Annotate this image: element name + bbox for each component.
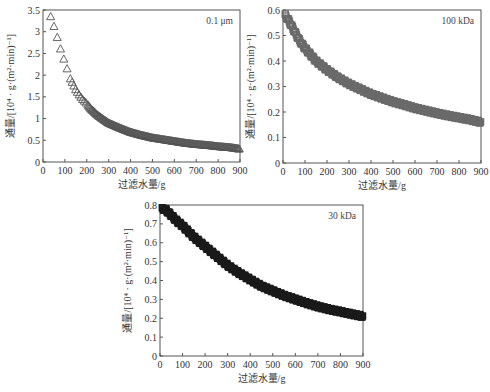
x-tick-label: 500 bbox=[145, 165, 160, 176]
chart-panel-100kda: 010020030040050060070080090000.10.20.30.… bbox=[245, 5, 489, 192]
y-tick-label: 0.4 bbox=[268, 56, 281, 67]
x-tick-label: 200 bbox=[198, 359, 213, 370]
y-tick-label: 0.3 bbox=[268, 81, 281, 92]
triangle-marker bbox=[57, 45, 65, 52]
x-tick-label: 900 bbox=[474, 166, 489, 177]
y-tick-label: 0.4 bbox=[145, 275, 158, 286]
y-tick-label: 0.5 bbox=[145, 256, 158, 267]
x-axis-label: 过滤水量/g bbox=[118, 178, 166, 190]
plot-frame bbox=[283, 10, 481, 163]
data-series bbox=[159, 205, 365, 321]
x-tick-label: 700 bbox=[189, 165, 204, 176]
y-axis-label: 通量/[10⁴ · g·(m²·min)⁻¹] bbox=[122, 228, 134, 332]
triangle-marker bbox=[50, 22, 58, 29]
triangle-marker bbox=[47, 13, 55, 20]
y-tick-label: 0.6 bbox=[145, 237, 158, 248]
x-tick-label: 400 bbox=[123, 165, 138, 176]
y-tick-label: 0 bbox=[275, 158, 280, 169]
x-tick-label: 800 bbox=[333, 359, 348, 370]
y-tick-label: 0.5 bbox=[268, 30, 281, 41]
y-tick-label: 0.2 bbox=[268, 107, 281, 118]
x-tick-label: 800 bbox=[452, 166, 467, 177]
x-tick-label: 200 bbox=[320, 166, 335, 177]
x-tick-label: 800 bbox=[211, 165, 226, 176]
y-tick-label: 3 bbox=[35, 26, 40, 37]
y-tick-label: 0 bbox=[152, 351, 157, 362]
x-tick-label: 600 bbox=[408, 166, 423, 177]
y-tick-label: 0.5 bbox=[28, 135, 41, 146]
y-axis-label: 通量/[10⁴ · g·(m²·min)⁻¹] bbox=[5, 34, 17, 138]
y-tick-label: 0.1 bbox=[268, 132, 281, 143]
x-tick-label: 900 bbox=[233, 165, 248, 176]
y-axis-label: 通量/[10⁴ · g·(m²·min)⁻¹] bbox=[245, 34, 257, 138]
y-tick-label: 2.5 bbox=[28, 48, 41, 59]
y-tick-label: 0.6 bbox=[268, 5, 281, 16]
x-tick-label: 100 bbox=[57, 165, 72, 176]
chart-panel-0-1um: 010020030040050060070080090000.511.522.5… bbox=[5, 5, 248, 191]
x-tick-label: 300 bbox=[342, 166, 357, 177]
triangle-marker bbox=[63, 65, 71, 72]
y-tick-label: 0.3 bbox=[145, 294, 158, 305]
y-tick-label: 1 bbox=[35, 113, 40, 124]
y-tick-label: 0.7 bbox=[145, 218, 158, 229]
x-tick-label: 100 bbox=[175, 359, 190, 370]
data-series bbox=[282, 11, 483, 126]
panel-tag: 100 kDa bbox=[442, 16, 475, 26]
x-axis-label: 过滤水量/g bbox=[358, 179, 406, 191]
triangle-marker bbox=[60, 55, 68, 62]
x-tick-label: 900 bbox=[356, 359, 371, 370]
x-axis-label: 过滤水量/g bbox=[238, 372, 286, 384]
x-tick-label: 300 bbox=[101, 165, 116, 176]
x-tick-label: 300 bbox=[220, 359, 235, 370]
y-tick-label: 0.2 bbox=[145, 313, 158, 324]
x-tick-label: 0 bbox=[158, 359, 163, 370]
x-tick-label: 400 bbox=[243, 359, 258, 370]
x-tick-label: 400 bbox=[364, 166, 379, 177]
x-tick-label: 500 bbox=[386, 166, 401, 177]
panel-tag: 0.1 μm bbox=[206, 16, 233, 26]
x-tick-label: 100 bbox=[298, 166, 313, 177]
x-tick-label: 200 bbox=[79, 165, 94, 176]
y-tick-label: 1.5 bbox=[28, 91, 41, 102]
y-tick-label: 3.5 bbox=[28, 5, 41, 16]
x-tick-label: 500 bbox=[265, 359, 280, 370]
x-tick-label: 0 bbox=[41, 165, 46, 176]
data-series bbox=[47, 13, 244, 153]
chart-panel-30kda: 010020030040050060070080090000.10.20.30.… bbox=[122, 200, 371, 385]
y-tick-label: 0.1 bbox=[145, 332, 158, 343]
x-tick-label: 700 bbox=[430, 166, 445, 177]
panel-tag: 30 kDa bbox=[328, 211, 356, 221]
y-tick-label: 2 bbox=[35, 70, 40, 81]
x-tick-label: 600 bbox=[288, 359, 303, 370]
x-tick-label: 700 bbox=[310, 359, 325, 370]
y-tick-label: 0.8 bbox=[145, 200, 158, 211]
y-tick-label: 0 bbox=[35, 157, 40, 168]
triangle-marker bbox=[53, 33, 61, 40]
x-tick-label: 0 bbox=[281, 166, 286, 177]
x-tick-label: 600 bbox=[167, 165, 182, 176]
figure: 010020030040050060070080090000.511.522.5… bbox=[0, 0, 490, 392]
